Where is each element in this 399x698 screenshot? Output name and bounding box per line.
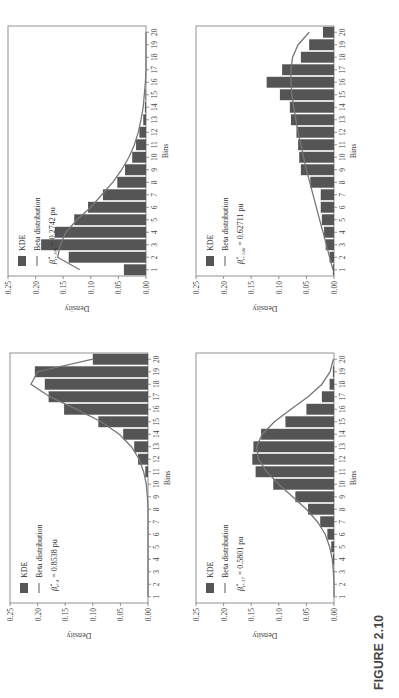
y-tick-label: 0.15: [61, 608, 70, 621]
x-tick-label: 15: [150, 91, 159, 99]
x-tick-label: 1: [338, 595, 347, 599]
chart-bottom-left: 0.000.050.100.150.200.251234567891011121…: [2, 345, 172, 645]
kde-bar: [123, 429, 148, 440]
legend-param: β̂t+146 = 0.62711 pu: [236, 204, 246, 265]
x-tick-label: 5: [338, 545, 347, 549]
kde-bar: [321, 202, 334, 213]
legend-kde-label: KDE: [206, 561, 215, 578]
x-tick-label: 14: [338, 430, 347, 438]
x-tick-label: 9: [338, 495, 347, 499]
x-tick-label: 5: [150, 218, 159, 222]
x-tick-label: 2: [338, 582, 347, 586]
legend-param: β̂t+37 = 0.5801 pu: [236, 537, 246, 592]
kde-bar: [252, 454, 334, 465]
kde-bar: [310, 177, 334, 188]
kde-bar: [296, 127, 334, 138]
kde-bar: [291, 114, 334, 125]
legend-param: β̂t+106 = 0.2742 pu: [48, 207, 58, 265]
x-tick-label: 19: [152, 368, 161, 376]
y-tick-label: 0.25: [192, 608, 201, 621]
y-tick-label: 0.25: [192, 281, 201, 294]
kde-bar: [290, 102, 334, 113]
kde-bar: [145, 89, 146, 100]
kde-legend-swatch: [206, 583, 214, 593]
chart-top-right: 0.000.050.100.150.200.251234567891011121…: [188, 18, 358, 318]
kde-bar: [74, 214, 146, 225]
kde-bar: [253, 441, 334, 452]
y-tick-label: 0.05: [116, 608, 125, 621]
x-tick-label: 15: [338, 418, 347, 426]
kde-bar: [267, 77, 334, 88]
y-tick-label: 0.15: [59, 281, 68, 294]
x-tick-label: 11: [150, 141, 159, 148]
kde-bar: [327, 529, 334, 540]
x-tick-label: 7: [152, 520, 161, 524]
kde-bar: [322, 214, 334, 225]
kde-legend-swatch: [20, 583, 28, 593]
kde-legend-swatch: [206, 256, 214, 266]
kde-bar: [282, 64, 334, 75]
y-tick-label: 0.10: [275, 281, 284, 294]
y-tick-label: 0.00: [144, 608, 153, 621]
kde-bar: [324, 227, 334, 238]
x-tick-label: 5: [338, 218, 347, 222]
kde-bar: [49, 391, 148, 402]
y-tick-label: 0.10: [275, 608, 284, 621]
kde-bar: [322, 391, 334, 402]
legend: KDEBeta distributionβ̂t+106 = 0.2742 pu: [18, 197, 58, 266]
x-tick-label: 9: [152, 495, 161, 499]
x-tick-label: 11: [338, 141, 347, 148]
x-tick-label: 11: [338, 468, 347, 475]
chart-bottom-right: 0.000.050.100.150.200.251234567891011121…: [188, 345, 358, 645]
x-tick-label: 17: [338, 393, 347, 401]
legend: KDEBeta distributionβ̂t+146 = 0.62711 pu: [206, 197, 246, 266]
x-tick-label: 8: [150, 180, 159, 184]
legend-beta-label: Beta distribution: [33, 197, 42, 251]
x-tick-label: 8: [338, 180, 347, 184]
kde-bar: [69, 252, 146, 263]
x-tick-label: 6: [338, 205, 347, 209]
x-tick-label: 18: [150, 53, 159, 61]
y-tick-label: 0.20: [220, 608, 229, 621]
x-tick-label: 2: [152, 582, 161, 586]
y-tick-label: 0.20: [34, 608, 43, 621]
kde-bar: [285, 416, 334, 427]
legend: KDEBeta distributionβ̂t+37 = 0.5801 pu: [206, 524, 246, 593]
x-axis-label: Bins: [163, 471, 172, 486]
x-tick-label: 2: [338, 255, 347, 259]
x-tick-label: 3: [338, 570, 347, 574]
y-tick-label: 0.00: [330, 281, 339, 294]
x-tick-label: 9: [338, 168, 347, 172]
y-tick-label: 0.05: [302, 281, 311, 294]
x-tick-label: 17: [150, 66, 159, 74]
y-tick-label: 0.20: [32, 281, 41, 294]
x-tick-label: 13: [150, 116, 159, 124]
x-tick-label: 4: [338, 230, 347, 234]
kde-bar: [261, 429, 334, 440]
kde-bar: [333, 366, 334, 377]
x-tick-label: 15: [338, 91, 347, 99]
y-tick-label: 0.25: [6, 608, 15, 621]
x-tick-label: 3: [150, 243, 159, 247]
kde-bar: [280, 89, 334, 100]
kde-bar: [93, 354, 148, 365]
kde-bar: [136, 139, 146, 150]
kde-bar: [309, 39, 334, 50]
legend-beta-label: Beta distribution: [221, 197, 230, 251]
x-tick-label: 20: [150, 28, 159, 36]
kde-bar: [124, 264, 146, 275]
legend-kde-label: KDE: [206, 234, 215, 251]
figure-caption: FIGURE 2.10: [372, 615, 386, 690]
x-tick-label: 10: [338, 153, 347, 161]
kde-bar: [45, 379, 148, 390]
legend-param: β̂t+4 = 0.8538 pu: [50, 539, 60, 592]
kde-bar: [298, 139, 334, 150]
x-tick-label: 2: [150, 255, 159, 259]
chart-top-left: 0.000.050.100.150.200.251234567891011121…: [0, 18, 170, 318]
x-tick-label: 7: [338, 520, 347, 524]
legend-beta-label: Beta distribution: [221, 524, 230, 578]
y-tick-label: 0.05: [302, 608, 311, 621]
x-tick-label: 1: [152, 595, 161, 599]
x-tick-label: 14: [152, 430, 161, 438]
y-tick-label: 0.25: [4, 281, 13, 294]
